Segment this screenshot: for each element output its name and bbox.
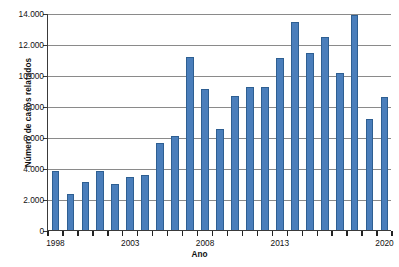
- x-axis-tick: [152, 231, 153, 236]
- bar: [261, 87, 269, 230]
- bar: [336, 73, 344, 230]
- x-axis-tick-label: 2008: [196, 238, 214, 248]
- x-axis-tick: [77, 231, 78, 236]
- bar: [156, 143, 164, 230]
- x-axis-tick-label: 2013: [271, 238, 289, 248]
- bar: [126, 177, 134, 230]
- x-axis-tick: [242, 231, 243, 236]
- bar: [111, 184, 119, 231]
- bar: [171, 136, 179, 230]
- x-axis-tick: [287, 231, 288, 236]
- bar-chart: Número de casos relatados 02.0004.0006.0…: [0, 0, 399, 267]
- bar: [291, 22, 299, 230]
- bar: [67, 194, 75, 230]
- y-axis-tick-label: 10.000: [2, 71, 44, 81]
- y-axis-tick-label: 14.000: [2, 9, 44, 19]
- y-axis-tick-label: 8.000: [2, 102, 44, 112]
- x-axis-tick: [331, 231, 332, 236]
- y-axis-tick-label: 2.000: [2, 195, 44, 205]
- x-axis-tick: [302, 231, 303, 236]
- x-axis-tick: [47, 231, 48, 236]
- bar: [52, 171, 60, 230]
- x-axis-tick: [62, 231, 63, 236]
- x-axis-tick-label: 2020: [375, 238, 393, 248]
- x-axis-tick: [167, 231, 168, 236]
- x-axis-tick-label: 2003: [121, 238, 139, 248]
- x-axis-tick: [317, 231, 318, 236]
- bar: [96, 171, 104, 230]
- x-axis-title: Ano: [0, 250, 399, 259]
- y-axis-tick-label: 12.000: [2, 40, 44, 50]
- bar: [82, 182, 90, 230]
- x-axis-tick: [346, 231, 347, 236]
- bar: [381, 97, 389, 230]
- x-axis-tick: [257, 231, 258, 236]
- x-axis-tick: [92, 231, 93, 236]
- x-axis-tick: [197, 231, 198, 236]
- x-axis-tick: [107, 231, 108, 236]
- bar: [306, 53, 314, 230]
- bar: [141, 175, 149, 230]
- x-axis-tick: [137, 231, 138, 236]
- x-axis-tick-label: 1998: [46, 238, 64, 248]
- bar: [246, 87, 254, 230]
- bar: [186, 57, 194, 230]
- x-axis-tick: [391, 231, 392, 236]
- x-axis-tick: [272, 231, 273, 236]
- bar: [201, 89, 209, 230]
- plot-area: 02.0004.0006.0008.00010.00012.00014.000 …: [47, 14, 391, 231]
- bar: [366, 119, 374, 230]
- x-axis-tick: [122, 231, 123, 236]
- x-axis-tick: [376, 231, 377, 236]
- y-axis-tick-label: 4.000: [2, 164, 44, 174]
- x-axis-tick: [182, 231, 183, 236]
- y-axis-tick-label: 6.000: [2, 133, 44, 143]
- bar: [351, 15, 359, 230]
- x-axis-tick: [361, 231, 362, 236]
- x-axis-tick: [212, 231, 213, 236]
- bar: [321, 37, 329, 230]
- bar: [276, 58, 284, 230]
- x-axis-tick: [227, 231, 228, 236]
- bar: [231, 96, 239, 230]
- bar: [216, 129, 224, 230]
- bar-series: [48, 14, 391, 230]
- y-axis-tick-label: 0: [2, 226, 44, 236]
